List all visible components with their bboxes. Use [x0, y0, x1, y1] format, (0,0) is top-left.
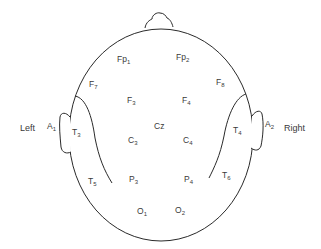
electrode-name: Cz	[154, 121, 164, 131]
electrode-name: Fp	[117, 54, 127, 64]
electrode-name: Fp	[176, 52, 186, 62]
electrode-a1: A1	[47, 122, 56, 132]
electrode-index: 4	[238, 130, 241, 136]
electrode-index: 3	[77, 132, 80, 138]
electrode-index: 3	[132, 100, 135, 106]
electrode-index: 3	[135, 179, 138, 185]
left-side-label: Left	[20, 124, 35, 133]
nose-icon	[145, 13, 173, 28]
electrode-fp1: Fp1	[117, 55, 130, 65]
electrode-index: 1	[127, 59, 130, 65]
electrode-index: 4	[189, 140, 192, 146]
left-ear-icon	[60, 113, 71, 153]
electrode-c4: C4	[183, 136, 192, 146]
electrode-index: 3	[134, 140, 137, 146]
electrode-f3: F3	[127, 96, 136, 106]
electrode-index: 2	[271, 124, 274, 130]
left-temporal-line	[75, 96, 112, 183]
electrode-index: 1	[53, 126, 56, 132]
electrode-o1: O1	[137, 207, 147, 217]
electrode-index: 8	[221, 82, 224, 88]
electrode-index: 4	[190, 179, 193, 185]
electrode-fp2: Fp2	[176, 53, 189, 63]
electrode-cz: Cz	[154, 122, 164, 131]
head-outline	[69, 29, 253, 241]
electrode-t6: T6	[222, 171, 231, 181]
electrode-index: 7	[94, 84, 97, 90]
right-temporal-line	[209, 94, 246, 178]
electrode-name: O	[175, 205, 182, 215]
electrode-t3: T3	[72, 128, 81, 138]
right-side-label: Right	[284, 124, 305, 133]
electrode-t5: T5	[88, 177, 97, 187]
electrode-index: 4	[187, 100, 190, 106]
electrode-c3: C3	[128, 136, 137, 146]
electrode-f8: F8	[216, 78, 225, 88]
electrode-index: 6	[227, 175, 230, 181]
electrode-t4: T4	[233, 126, 242, 136]
electrode-a2: A2	[265, 120, 274, 130]
electrode-index: 1	[144, 211, 147, 217]
right-ear-icon	[251, 111, 263, 150]
electrode-p4: P4	[184, 175, 193, 185]
electrode-index: 2	[186, 57, 189, 63]
electrode-f4: F4	[182, 96, 191, 106]
electrode-name: O	[137, 206, 144, 216]
electrode-f7: F7	[89, 80, 98, 90]
electrode-index: 5	[93, 181, 96, 187]
electrode-o2: O2	[175, 206, 185, 216]
electrode-p3: P3	[129, 175, 138, 185]
electrode-index: 2	[182, 210, 185, 216]
